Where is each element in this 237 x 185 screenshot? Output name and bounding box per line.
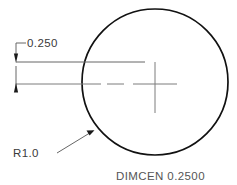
cad-drawing-canvas: 0.250 R1.0 DIMCEN 0.2500: [0, 0, 237, 185]
dimension-value-text: 0.250: [27, 37, 58, 49]
technical-drawing-svg: 0.250 R1.0 DIMCEN 0.2500: [0, 0, 237, 185]
dimcen-note-text: DIMCEN 0.2500: [116, 170, 205, 182]
radius-leader-line: [57, 131, 93, 153]
radius-label-text: R1.0: [13, 147, 39, 159]
